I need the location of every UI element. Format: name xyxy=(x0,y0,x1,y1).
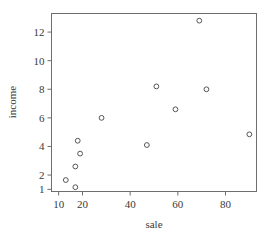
y-axis-ticks xyxy=(48,32,52,189)
x-tick-label: 60 xyxy=(172,198,184,210)
y-tick-label: 8 xyxy=(39,83,45,95)
data-point xyxy=(99,115,104,120)
y-tick-label: 10 xyxy=(34,55,46,67)
data-point xyxy=(73,164,78,169)
data-point xyxy=(204,87,209,92)
x-tick-label: 20 xyxy=(77,198,89,210)
x-axis-ticks xyxy=(59,192,226,196)
x-tick-label: 40 xyxy=(125,198,137,210)
y-tick-label: 6 xyxy=(39,112,45,124)
data-point xyxy=(63,178,68,183)
x-tick-label: 80 xyxy=(220,198,232,210)
y-tick-label: 1 xyxy=(39,183,45,195)
y-tick-label: 4 xyxy=(39,140,45,152)
chart-canvas: 124681012 1020406080 sale income xyxy=(0,0,272,242)
data-point xyxy=(75,138,80,143)
y-tick-label: 12 xyxy=(34,26,45,38)
x-tick-labels: 1020406080 xyxy=(53,198,231,210)
data-point xyxy=(154,84,159,89)
data-point xyxy=(173,107,178,112)
data-point xyxy=(73,185,78,190)
x-axis-title: sale xyxy=(145,218,162,230)
data-point xyxy=(197,18,202,23)
scatter-plot-figure: 124681012 1020406080 sale income xyxy=(0,0,272,242)
data-points xyxy=(63,18,251,189)
plot-frame xyxy=(52,14,257,192)
data-point xyxy=(144,143,149,148)
data-point xyxy=(78,151,83,156)
y-tick-labels: 124681012 xyxy=(34,26,46,195)
data-point xyxy=(247,132,252,137)
x-tick-label: 10 xyxy=(53,198,65,210)
y-tick-label: 2 xyxy=(39,169,45,181)
y-axis-title: income xyxy=(6,86,18,118)
